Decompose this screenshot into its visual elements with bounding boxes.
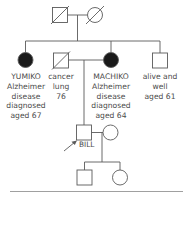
machiko-label-line: Alzheimer [87,82,135,92]
machiko-label-line: MACHIKO [87,72,135,82]
bill-spouse-circle [103,125,118,140]
machiko-label-line: diagnosed [87,101,135,111]
machiko-label-line: disease [87,92,135,102]
brother-label: alive and well aged 61 [138,72,182,101]
brother-square [153,53,168,68]
yumiko-label-line: disease [2,92,50,102]
brother-label-line: aged 61 [138,92,182,102]
yumiko-label-line: YUMIKO [2,72,50,82]
machiko-circle-affected [104,53,119,68]
proband-label: BILL [79,140,95,149]
uncle-label-line: lung [44,82,78,92]
yumiko-circle-affected [18,53,33,68]
brother-label-line: alive and [138,72,182,82]
yumiko-label-line: diagnosed [2,101,50,111]
uncle-label-line: cancer [44,72,78,82]
uncle-label: cancer lung 76 [44,72,78,101]
yumiko-label: YUMIKO Alzheimer disease diagnosed aged … [2,72,50,121]
daughter-circle [113,170,128,185]
yumiko-label-line: Alzheimer [2,82,50,92]
machiko-label-line: aged 64 [87,111,135,121]
machiko-label: MACHIKO Alzheimer disease diagnosed aged… [87,72,135,121]
brother-label-line: well [138,82,182,92]
uncle-label-line: 76 [44,92,78,102]
yumiko-label-line: aged 67 [2,111,50,121]
bill-square-proband [77,125,92,140]
son-square [77,170,92,185]
